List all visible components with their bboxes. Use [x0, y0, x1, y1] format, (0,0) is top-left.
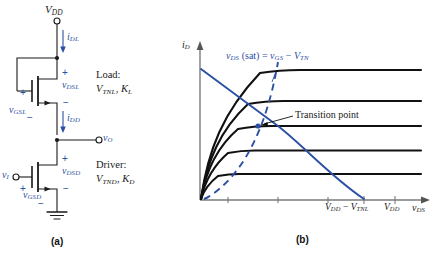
vdsl-minus-sign: − — [63, 98, 69, 108]
xtick-label-vdd: VDD — [384, 203, 400, 213]
vgsd-minus-sign: − — [38, 199, 44, 209]
y-axis-label: iD — [182, 40, 190, 51]
vdsd-label: vDSD — [62, 166, 80, 177]
transition-point-marker — [255, 123, 260, 128]
vdsl-label: vDSL — [62, 80, 79, 91]
output-curve-1 — [201, 174, 421, 199]
circuit-schematic — [0, 0, 190, 256]
id-vds-characteristic-chart — [178, 0, 443, 256]
vdsd-plus-sign: + — [62, 154, 68, 164]
ground-symbol — [47, 212, 67, 219]
vdd-terminal-node — [54, 18, 60, 24]
load-source-arrow — [45, 101, 51, 106]
saturation-curve-label: vDS (sat) = vGS − VTN — [226, 51, 309, 62]
driver-source-arrow — [45, 187, 51, 192]
figure-root: VDD iDL iDD vDSL vGSL vDSD vGSD vI vO + … — [0, 0, 443, 256]
vgsl-plus-sign: + — [20, 88, 26, 98]
load-params: VTNL, KL — [96, 82, 132, 97]
output-terminal-node — [96, 137, 102, 143]
vgsl-label: vGSL — [9, 105, 26, 116]
driver-annotation: Driver: VTND, KD — [96, 158, 135, 187]
vi-label: vI — [2, 170, 9, 181]
vdsd-minus-sign: − — [63, 184, 69, 194]
x-axis-label: vDS — [412, 203, 425, 214]
load-line-curve — [201, 69, 364, 199]
vgsl-minus-sign: − — [27, 113, 33, 123]
input-terminal-node — [13, 174, 19, 180]
driver-drain-lead — [38, 140, 57, 165]
idd-label: iDD — [67, 113, 80, 124]
load-annotation: Load: VTNL, KL — [96, 68, 132, 97]
vgsd-plus-sign: + — [20, 184, 26, 194]
circuit-panel: VDD iDL iDD vDSL vGSL vDSD vGSD vI vO + … — [0, 0, 190, 256]
caption-b: (b) — [296, 234, 309, 245]
vdsl-plus-sign: + — [62, 68, 68, 78]
load-current-arrow — [60, 30, 66, 53]
driver-heading: Driver: — [96, 158, 135, 172]
vdd-label: VDD — [45, 4, 63, 16]
xtick-label-vdd-minus-vtnl: VDD − VTNL — [325, 203, 369, 213]
transition-point-label: Transition point — [295, 110, 359, 120]
driver-params: VTND, KD — [96, 172, 135, 187]
output-curve-3 — [201, 126, 421, 199]
mosfet-output-curves — [201, 70, 421, 199]
driver-current-arrow — [60, 111, 66, 133]
output-curve-5 — [201, 70, 421, 199]
caption-a: (a) — [51, 236, 63, 247]
graph-panel: iD vDS vDS (sat) = vGS − VTN Transition … — [178, 0, 443, 256]
vo-label: vO — [103, 133, 113, 144]
load-source-lead — [38, 103, 57, 135]
load-heading: Load: — [96, 68, 132, 82]
idl-label: iDL — [67, 32, 79, 43]
load-drain-lead — [38, 58, 57, 79]
